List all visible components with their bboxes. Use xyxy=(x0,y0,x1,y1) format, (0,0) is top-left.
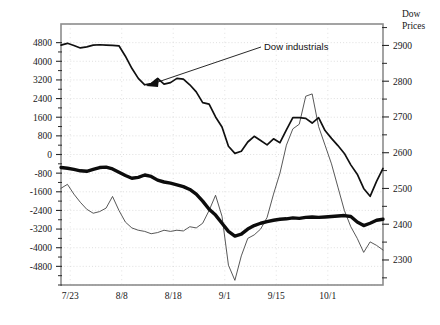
left-tick-label-11: -4000 xyxy=(30,243,52,253)
dow-prices-chart-figure: 480040003200240016008000-800-1600-2400-3… xyxy=(0,0,440,325)
right-axis-title-line1: Dow xyxy=(402,9,421,19)
horizontal-gridlines xyxy=(61,43,383,285)
left-tick-label-2: 3200 xyxy=(33,75,52,85)
right-tick-label-5: 2400 xyxy=(393,220,412,230)
right-tick-label-1: 2800 xyxy=(393,77,412,87)
left-tick-label-12: -4800 xyxy=(30,262,52,272)
annotation-leader-line xyxy=(152,47,261,84)
left-tick-label-3: 2400 xyxy=(33,94,52,104)
annotation-label-dow-industrials: Dow industrials xyxy=(264,41,329,52)
x-tick-label-4: 9/15 xyxy=(268,291,285,301)
left-tick-label-0: 4800 xyxy=(33,38,52,48)
right-tick-label-3: 2600 xyxy=(393,148,412,158)
series-path-series-thin-volatile xyxy=(61,94,383,280)
data-series-group xyxy=(61,43,383,280)
right-tick-label-0: 2900 xyxy=(393,41,412,51)
x-tick-label-0: 7/23 xyxy=(62,291,79,301)
left-tick-label-5: 800 xyxy=(38,131,53,141)
right-tick-label-2: 2700 xyxy=(393,112,412,122)
left-tick-label-8: -1600 xyxy=(30,187,52,197)
right-tick-label-6: 2300 xyxy=(393,255,412,265)
x-tick-label-3: 9/1 xyxy=(219,291,231,301)
left-axis-tick-labels: 480040003200240016008000-800-1600-2400-3… xyxy=(30,38,52,272)
right-axis-title-line2: Prices xyxy=(402,21,426,31)
vertical-gridlines xyxy=(70,24,328,285)
right-tick-label-4: 2500 xyxy=(393,184,412,194)
chart-canvas: 480040003200240016008000-800-1600-2400-3… xyxy=(0,0,440,325)
annotation-arrowhead-icon xyxy=(146,78,159,87)
x-tick-label-5: 10/1 xyxy=(319,291,336,301)
x-tick-label-2: 8/18 xyxy=(165,291,182,301)
left-tick-label-4: 1600 xyxy=(33,113,52,123)
x-axis-tick-labels: 7/238/88/189/19/1510/1 xyxy=(62,291,337,301)
x-tick-label-1: 8/8 xyxy=(116,291,128,301)
left-tick-label-6: 0 xyxy=(47,150,52,160)
left-tick-label-9: -2400 xyxy=(30,206,52,216)
left-tick-label-1: 4000 xyxy=(33,57,52,67)
left-tick-label-10: -3200 xyxy=(30,224,52,234)
right-axis-tick-labels: 2900280027002600250024002300 xyxy=(393,41,412,266)
left-tick-label-7: -800 xyxy=(35,169,53,179)
